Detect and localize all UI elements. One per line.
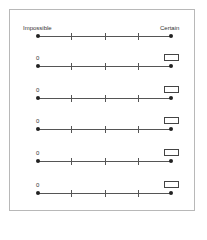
tick — [105, 126, 106, 133]
end-dot — [169, 34, 173, 38]
end-dot — [169, 159, 173, 163]
number-line-row: 0 — [0, 149, 207, 169]
tick — [138, 190, 139, 197]
answer-box[interactable] — [164, 181, 179, 188]
start-dot — [36, 159, 40, 163]
certain-label: Certain — [160, 25, 179, 31]
start-dot — [36, 64, 40, 68]
tick — [71, 126, 72, 133]
number-line-row: 0 — [0, 54, 207, 74]
tick — [71, 63, 72, 70]
impossible-label: Impossible — [23, 25, 52, 31]
tick — [138, 63, 139, 70]
end-dot — [169, 191, 173, 195]
number-line-row: 0 — [0, 117, 207, 137]
tick — [105, 190, 106, 197]
start-dot — [36, 96, 40, 100]
tick — [138, 158, 139, 165]
tick — [71, 158, 72, 165]
tick — [105, 158, 106, 165]
answer-box[interactable] — [164, 54, 179, 61]
start-dot — [36, 127, 40, 131]
tick — [138, 33, 139, 40]
zero-label: 0 — [36, 55, 39, 61]
end-dot — [169, 96, 173, 100]
probability-scale: Impossible Certain — [0, 24, 207, 44]
tick — [71, 33, 72, 40]
tick — [105, 33, 106, 40]
zero-label: 0 — [36, 182, 39, 188]
zero-label: 0 — [36, 150, 39, 156]
start-dot — [36, 191, 40, 195]
tick — [138, 126, 139, 133]
tick — [71, 95, 72, 102]
number-line-row: 0 — [0, 86, 207, 106]
zero-label: 0 — [36, 87, 39, 93]
zero-label: 0 — [36, 118, 39, 124]
answer-box[interactable] — [164, 149, 179, 156]
tick — [138, 95, 139, 102]
tick — [71, 190, 72, 197]
start-dot — [36, 34, 40, 38]
number-line-row: 0 — [0, 181, 207, 201]
end-dot — [169, 64, 173, 68]
tick — [105, 63, 106, 70]
answer-box[interactable] — [164, 117, 179, 124]
tick — [105, 95, 106, 102]
end-dot — [169, 127, 173, 131]
answer-box[interactable] — [164, 86, 179, 93]
